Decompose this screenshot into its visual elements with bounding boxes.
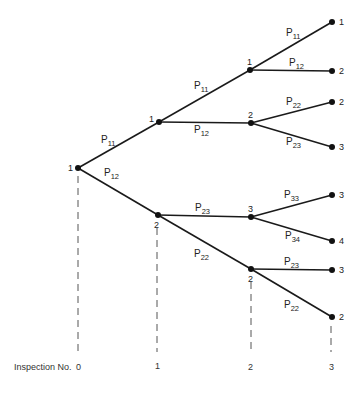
inspection-axis: Inspection No. 0 1 2 3 — [14, 361, 334, 372]
node-n2d — [248, 266, 254, 272]
state-label-n1b: 2 — [154, 220, 159, 230]
prob-label-n2b-n3d: P23 — [286, 136, 301, 150]
node-n3f — [329, 238, 335, 244]
node-n3g — [329, 267, 335, 273]
edge-n1a-n2b — [159, 122, 251, 123]
node-n2c — [248, 214, 254, 220]
node-n3c — [329, 99, 335, 105]
state-label-root: 1 — [68, 163, 73, 173]
state-label-n3b: 2 — [339, 66, 344, 76]
node-n3e — [329, 192, 335, 198]
node-n1a — [156, 119, 162, 125]
state-label-n3a: 1 — [339, 17, 344, 27]
node-n3b — [329, 68, 335, 74]
state-label-n3f: 4 — [339, 236, 344, 246]
state-label-n2c: 3 — [248, 204, 253, 214]
prob-label-n1a-n2b: P12 — [194, 124, 209, 138]
state-label-n2d: 2 — [248, 274, 253, 284]
axis-tick-3: 3 — [329, 362, 334, 372]
state-label-n1a: 1 — [149, 114, 154, 124]
probability-tree-diagram: 1 1 2 1 2 3 2 1 2 2 3 3 4 3 2 P11 P12 P1… — [0, 0, 360, 404]
node-n3h — [329, 314, 335, 320]
state-label-n3d: 3 — [339, 142, 344, 152]
edge-n1a-n2a — [159, 70, 250, 122]
state-label-n3h: 2 — [339, 312, 344, 322]
node-root — [75, 165, 81, 171]
edge-root-n1a — [78, 122, 159, 168]
axis-tick-0: 0 — [76, 362, 81, 372]
node-n3d — [329, 144, 335, 150]
axis-tick-1: 1 — [155, 361, 160, 371]
prob-label-n2c-n3e: P33 — [284, 189, 299, 203]
state-label-n2b: 2 — [248, 110, 253, 120]
state-label-n3e: 3 — [339, 190, 344, 200]
prob-label-root-n1a: P11 — [101, 134, 115, 148]
prob-label-n2d-n3g: P23 — [284, 256, 299, 270]
state-label-n3g: 3 — [339, 265, 344, 275]
axis-tick-2: 2 — [248, 362, 253, 372]
axis-label: Inspection No. — [14, 362, 72, 372]
prob-label-n1a-n2a: P11 — [194, 80, 208, 94]
prob-label-n1b-n2d: P22 — [194, 248, 209, 262]
prob-label-n2a-n3a: P11 — [286, 27, 300, 41]
prob-label-n2a-n3b: P12 — [289, 57, 304, 71]
prob-label-n2d-n3h: P22 — [284, 299, 299, 313]
node-n3a — [329, 19, 335, 25]
state-label-n2a: 1 — [247, 57, 252, 67]
node-n1b — [155, 212, 161, 218]
prob-label-n1b-n2c: P23 — [195, 202, 210, 216]
node-n2b — [248, 120, 254, 126]
edge-n2a-n3b — [250, 70, 332, 71]
prob-label-n2b-n3c: P22 — [286, 96, 301, 110]
prob-label-root-n1b: P12 — [104, 167, 119, 181]
prob-label-n2c-n3f: P34 — [285, 230, 300, 244]
state-label-n3c: 2 — [339, 97, 344, 107]
node-n2a — [247, 67, 253, 73]
